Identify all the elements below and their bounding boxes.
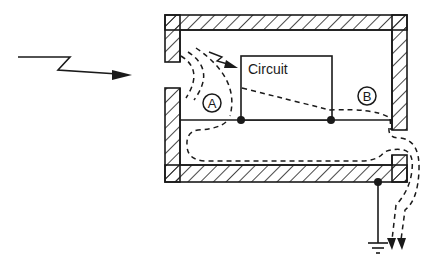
shield-right-upper-wall bbox=[392, 15, 407, 130]
shield-bottom-wall bbox=[165, 165, 407, 182]
circuit-box: Circuit bbox=[241, 56, 332, 120]
incoming-signal-arrow-icon bbox=[18, 57, 132, 80]
leak-arrow-icon-1 bbox=[387, 238, 396, 250]
shield-left-upper-wall bbox=[165, 15, 180, 62]
point-a-marker: A bbox=[203, 94, 221, 112]
shield-right-lower-stub bbox=[392, 155, 407, 182]
point-a-label: A bbox=[208, 96, 217, 111]
diagram-canvas: Circuit A B bbox=[0, 0, 448, 266]
point-b-marker: B bbox=[358, 87, 376, 105]
circuit-label: Circuit bbox=[248, 61, 288, 77]
leak-arrow-icon-2 bbox=[397, 238, 406, 250]
shield-top-wall bbox=[165, 15, 407, 30]
junction-dot-right bbox=[327, 116, 335, 124]
junction-dot-left bbox=[237, 116, 245, 124]
ground-icon bbox=[368, 178, 388, 253]
point-b-label: B bbox=[363, 89, 372, 104]
